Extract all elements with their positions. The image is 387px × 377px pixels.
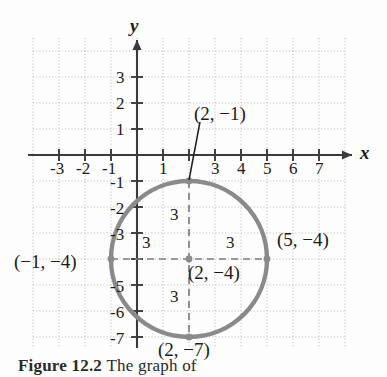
point-label-right: (5, −4) <box>277 230 329 249</box>
x-tick-5: 5 <box>263 160 272 177</box>
figure-caption-number: Figure 12.2 <box>18 356 102 375</box>
y-tick-neg7: -7 <box>110 330 124 347</box>
y-tick-neg3: -3 <box>110 226 124 243</box>
y-axis-label: y <box>130 16 138 35</box>
y-tick-neg6: -6 <box>110 304 124 321</box>
figure-caption: Figure 12.2 The graph of <box>18 356 378 377</box>
x-tick-3: 3 <box>211 160 220 177</box>
point-right <box>264 256 271 263</box>
x-tick-6: 6 <box>289 160 298 177</box>
x-tick-7: 7 <box>315 160 324 177</box>
radius-label-right: 3 <box>226 234 235 251</box>
point-label-center: (2, −4) <box>188 263 240 282</box>
y-tick-neg1: -1 <box>110 174 124 191</box>
point-label-left: (−1, −4) <box>14 252 77 271</box>
y-tick-1: 1 <box>116 121 125 138</box>
figure-canvas: y x -3 -2 -1 1 3 4 5 6 7 3 2 1 -1 -2 -3 … <box>0 0 387 377</box>
x-tick-4: 4 <box>237 160 246 177</box>
x-tick-neg3: -3 <box>50 160 64 177</box>
radius-label-left: 3 <box>142 234 151 251</box>
point-label-top: (2, −1) <box>194 104 246 123</box>
point-left <box>108 256 115 263</box>
y-tick-neg2: -2 <box>110 200 124 217</box>
leader-line-top-point <box>189 122 200 180</box>
y-tick-neg5: -5 <box>110 278 124 295</box>
x-tick-1: 1 <box>159 160 168 177</box>
x-tick-neg2: -2 <box>76 160 90 177</box>
y-tick-2: 2 <box>116 95 125 112</box>
figure-caption-text: The graph of <box>107 356 197 375</box>
y-tick-3: 3 <box>116 69 125 86</box>
y-axis <box>132 40 141 348</box>
radius-label-down: 3 <box>170 288 179 305</box>
radius-label-up: 3 <box>170 206 179 223</box>
x-axis-label: x <box>360 143 370 162</box>
coordinate-plane-graphic <box>0 0 387 377</box>
